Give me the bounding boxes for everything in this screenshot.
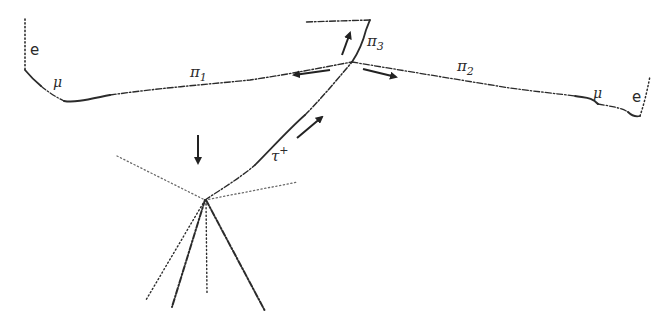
pi1-direction-arrow-icon [294,70,330,75]
label-tau-plus: τ+ [271,144,289,165]
track-beam-left [117,156,205,200]
track-e-right [640,76,650,116]
track-mu-left [25,70,41,86]
track-e-right-bend [628,112,640,116]
label-pi1: π1 [189,63,207,84]
track-prong-4 [206,200,265,311]
track-pi3-top [305,20,370,22]
track-prong-1 [146,200,205,300]
track-prong-2 [172,200,205,307]
pi2-direction-arrow-icon [363,69,396,77]
pi3-direction-arrow-icon [342,33,350,55]
track-tau-upper [255,115,305,165]
label-e-left: e [30,41,39,59]
track-tau [205,165,255,200]
label-pi2: π2 [456,57,474,78]
particle-decay-diagram: e μ π1 π2 π3 τ+ μ e [0,0,663,326]
track-pi1-mid [110,62,352,95]
label-mu-left: μ [53,74,62,90]
label-pi3: π3 [366,32,384,53]
tau-direction-arrow-icon [297,117,322,138]
track-pi1 [64,95,110,102]
track-mu-right-tail [598,104,628,112]
track-prong-3 [206,200,207,293]
label-mu-right: μ [593,85,602,101]
label-e-right: e [632,88,641,106]
